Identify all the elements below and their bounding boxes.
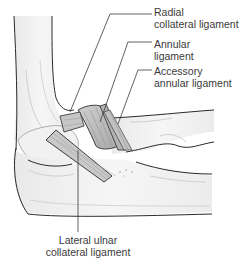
label-lateral-ulnar-collateral-ligament: Lateral ulnar collateral ligament bbox=[38, 234, 138, 258]
label-accessory-annular-ligament: Accessory annular ligament bbox=[154, 65, 232, 89]
label-line: collateral ligament bbox=[38, 246, 138, 258]
elbow-ligament-diagram: Radial collateral ligament Annular ligam… bbox=[0, 0, 247, 260]
label-line: Lateral ulnar bbox=[38, 234, 138, 246]
label-line: collateral ligament bbox=[154, 18, 239, 30]
label-radial-collateral-ligament: Radial collateral ligament bbox=[154, 6, 239, 30]
leader-radial-collateral bbox=[70, 14, 152, 112]
anatomy-illustration bbox=[0, 0, 247, 260]
label-line: Radial bbox=[154, 6, 239, 18]
label-line: ligament bbox=[154, 50, 194, 62]
label-line: Accessory bbox=[154, 65, 232, 77]
radial-collateral-ligament bbox=[60, 112, 84, 132]
label-annular-ligament: Annular ligament bbox=[154, 38, 194, 62]
label-line: Annular bbox=[154, 38, 194, 50]
label-line: annular ligament bbox=[154, 77, 232, 89]
